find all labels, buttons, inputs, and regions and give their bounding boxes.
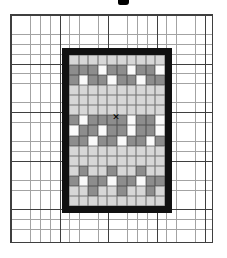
pattern-cell [117,55,127,65]
pattern-cell [155,176,165,186]
pattern-cell [88,65,98,75]
pattern-cell [146,166,156,176]
pattern-cell [155,85,165,95]
pattern-cell [127,115,137,125]
pattern-cell [79,105,89,115]
pattern-cell [107,156,117,166]
pattern-cell [98,115,108,125]
pattern-cell [155,156,165,166]
pattern-cell [88,186,98,196]
pattern-cell [136,55,146,65]
pattern-cell [146,156,156,166]
pattern-cell [127,75,137,85]
pattern-cell [69,95,79,105]
pattern-cell [98,186,108,196]
pattern-cell [117,156,127,166]
pattern-cell [155,125,165,135]
pattern-cell [88,115,98,125]
pattern-cell [136,186,146,196]
pattern-cell [136,105,146,115]
pattern-cell [136,115,146,125]
pattern-cell [117,176,127,186]
pattern-cell [127,166,137,176]
pattern-cell [127,146,137,156]
pattern-cell [79,196,89,206]
pattern-cell [88,105,98,115]
pattern-cell [155,196,165,206]
pattern-cell [79,55,89,65]
pattern-cell [146,85,156,95]
pattern-cell [155,65,165,75]
pattern-cell [136,95,146,105]
pattern-cell [79,115,89,125]
pattern-cell [98,136,108,146]
pattern-grid: ✕ [69,55,165,206]
pattern-cell [136,176,146,186]
pattern-cell [136,166,146,176]
pattern-cell [146,196,156,206]
pattern-cell [79,136,89,146]
pattern-cell [117,146,127,156]
pattern-cell [146,176,156,186]
pattern-cell [69,105,79,115]
pattern-cell [127,156,137,166]
pattern-cell [146,115,156,125]
pattern-cell [127,55,137,65]
pattern-cell [79,156,89,166]
pattern-cell [98,65,108,75]
pattern-cell [107,55,117,65]
pattern-cell [146,75,156,85]
pattern-cell [127,85,137,95]
pattern-cell [155,186,165,196]
pattern-cell [127,196,137,206]
pattern-cell [107,85,117,95]
pattern-cell [117,115,127,125]
pattern-cell [127,105,137,115]
pattern-cell [88,176,98,186]
pattern-cell [107,186,117,196]
pattern-cell [69,125,79,135]
pattern-cell [127,65,137,75]
pattern-cell [136,156,146,166]
pattern-cell [88,196,98,206]
pattern-cell [117,196,127,206]
pattern-cell [88,166,98,176]
pattern-cell [155,136,165,146]
pattern-cell [155,115,165,125]
pattern-cell [79,146,89,156]
pattern-cell [127,136,137,146]
pattern-cell [155,55,165,65]
pattern-cell [98,85,108,95]
pattern-cell [88,55,98,65]
pattern-cell [79,85,89,95]
pattern-cell [79,75,89,85]
pattern-cell [117,95,127,105]
pattern-cell [146,136,156,146]
pattern-cell [136,146,146,156]
pattern-cell [107,146,117,156]
pattern-cell [107,105,117,115]
pattern-cell [136,85,146,95]
pattern-cell [69,75,79,85]
pattern-cell [146,125,156,135]
pattern-cell [107,176,117,186]
pattern-cell [79,125,89,135]
pattern-cell [136,75,146,85]
pattern-cell [117,136,127,146]
pattern-cell [146,55,156,65]
pattern-cell [117,75,127,85]
pattern-cell [98,95,108,105]
pattern-cell [146,186,156,196]
pattern-cell [127,176,137,186]
pattern-cell [117,65,127,75]
pattern-cell [155,146,165,156]
pattern-cell [88,125,98,135]
pattern-cell [117,85,127,95]
pattern-cell [98,75,108,85]
scanned-page: ✕ [0,0,227,258]
pattern-cell [98,125,108,135]
pattern-cell [69,186,79,196]
pattern-cell [79,176,89,186]
pattern-cell [136,65,146,75]
pattern-cell [136,196,146,206]
